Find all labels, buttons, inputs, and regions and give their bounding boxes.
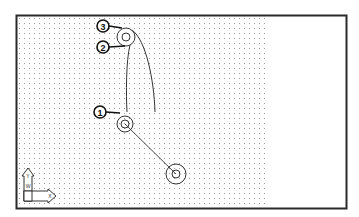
cad-viewport[interactable]: 3 2 1 Y W X bbox=[0, 0, 359, 217]
ucs-w-label: W bbox=[26, 183, 31, 189]
circle-top[interactable] bbox=[117, 28, 135, 46]
snap-grid bbox=[19, 18, 269, 207]
callout-1-label: 1 bbox=[97, 108, 102, 118]
callout-2-label: 2 bbox=[100, 43, 105, 53]
callout-3-label: 3 bbox=[100, 22, 105, 32]
